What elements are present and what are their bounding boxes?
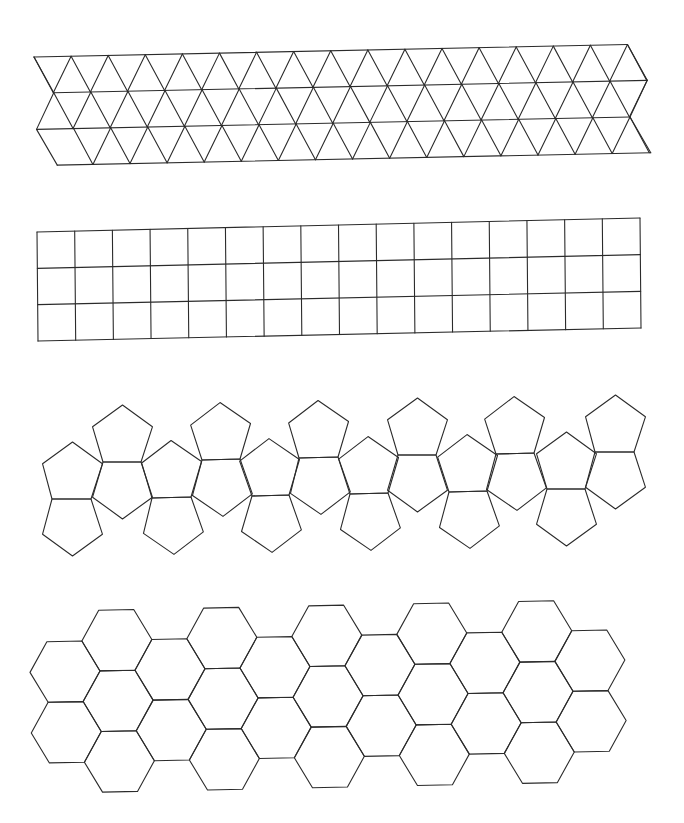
edge <box>489 222 490 332</box>
edge <box>225 228 226 337</box>
pentagon-strip <box>43 395 646 556</box>
edge <box>112 230 113 339</box>
pentagon <box>440 491 500 548</box>
hexagon <box>188 668 258 729</box>
edge <box>184 90 202 127</box>
hexagon <box>135 639 205 700</box>
edge <box>573 82 592 118</box>
pentagon <box>242 495 302 552</box>
edge <box>405 49 424 85</box>
edge <box>276 88 295 124</box>
pentagon <box>193 459 253 516</box>
edge <box>536 46 554 83</box>
hexagon <box>345 634 415 695</box>
edge <box>555 82 573 119</box>
hexagon <box>504 722 574 783</box>
pentagon <box>586 395 646 452</box>
edge <box>182 54 201 90</box>
pentagon <box>485 397 545 454</box>
pentagon <box>142 441 202 498</box>
hexagon <box>241 697 311 758</box>
edge <box>263 227 264 336</box>
edge <box>353 122 371 159</box>
edge <box>527 221 528 331</box>
hexagon <box>240 637 310 698</box>
edge <box>640 218 641 328</box>
edge <box>427 121 445 158</box>
edge <box>221 89 239 126</box>
triangle-strip <box>34 45 651 166</box>
edge <box>425 85 444 121</box>
pentagon <box>93 405 153 462</box>
edge <box>573 45 591 82</box>
edge <box>111 128 130 164</box>
edge <box>165 54 183 91</box>
edge <box>296 87 314 124</box>
edge <box>127 55 145 92</box>
pentagon <box>43 499 103 556</box>
edge <box>315 123 333 160</box>
edge <box>387 49 405 86</box>
edge <box>461 48 479 85</box>
edge <box>407 122 426 158</box>
square-strip <box>37 218 641 341</box>
pentagon <box>289 401 349 458</box>
edge <box>339 225 340 335</box>
tessellation-canvas <box>0 0 684 823</box>
edge <box>565 220 566 330</box>
edge <box>37 93 54 130</box>
edge <box>602 219 603 329</box>
edge <box>376 224 377 334</box>
edge <box>259 125 278 161</box>
hexagon <box>555 630 625 691</box>
edge <box>278 124 296 161</box>
hexagon <box>187 607 257 668</box>
edge <box>445 121 464 157</box>
edge <box>222 125 241 161</box>
edge <box>165 90 184 126</box>
edge <box>239 89 258 125</box>
edge <box>627 45 646 81</box>
edge <box>75 231 76 340</box>
hexagon <box>503 661 573 722</box>
edge <box>518 83 536 120</box>
edge <box>350 50 368 87</box>
hexagon <box>136 699 206 760</box>
pentagon <box>388 398 448 455</box>
edge <box>145 55 164 91</box>
edge <box>452 222 453 332</box>
hexagon <box>30 641 100 702</box>
edge <box>593 118 612 154</box>
edge <box>276 52 294 89</box>
edge <box>414 223 415 333</box>
edge <box>71 56 90 92</box>
edge <box>556 118 575 154</box>
edge <box>590 45 609 81</box>
edge <box>37 232 38 341</box>
edge <box>93 128 111 165</box>
edge <box>350 87 369 123</box>
edge <box>239 52 257 89</box>
edge <box>553 46 572 82</box>
edge <box>130 127 148 164</box>
edge <box>407 85 425 122</box>
hexagon <box>292 605 362 666</box>
edge <box>612 117 630 154</box>
hexagon <box>84 731 154 792</box>
edge <box>499 83 518 119</box>
edge <box>294 52 313 88</box>
edge <box>188 229 189 338</box>
edge <box>313 51 331 88</box>
edge <box>202 90 221 126</box>
edge <box>498 47 516 84</box>
hexagon <box>293 666 363 727</box>
hexagon <box>31 702 101 763</box>
edge <box>301 226 302 335</box>
edge <box>629 80 647 117</box>
edge <box>57 153 650 165</box>
edge <box>108 55 127 91</box>
hexagon <box>189 729 259 790</box>
edge <box>150 229 151 338</box>
hexagon <box>451 693 521 754</box>
edge <box>388 86 407 122</box>
